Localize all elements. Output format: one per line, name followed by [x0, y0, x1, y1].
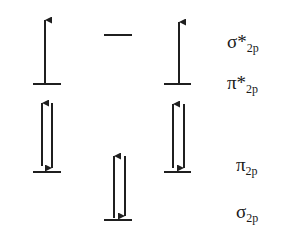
label-symbol: σ — [236, 201, 246, 222]
label-subscript: 2p — [246, 82, 258, 96]
label-symbol: π* — [227, 72, 246, 93]
label-subscript: 2p — [246, 164, 258, 178]
level-pi-2p-left — [33, 103, 61, 172]
label-sigma-2p: σ2p — [236, 202, 258, 224]
label-subscript: 2p — [247, 41, 259, 55]
label-pi-2p: π2p — [236, 155, 258, 177]
level-pi-star-2p-right — [164, 22, 191, 84]
label-sigma-star-2p: σ*2p — [227, 32, 259, 54]
level-pi-star-2p-left — [33, 20, 61, 84]
level-pi-2p-right — [164, 104, 191, 172]
label-symbol: σ* — [227, 31, 247, 52]
label-pi-star-2p: π*2p — [227, 73, 258, 95]
level-sigma-2p — [104, 156, 132, 220]
label-symbol: π — [236, 154, 246, 175]
label-subscript: 2p — [246, 211, 258, 225]
